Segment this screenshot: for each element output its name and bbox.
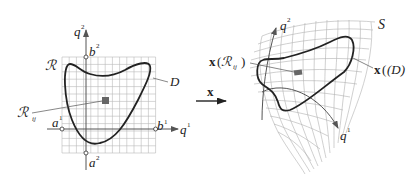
mapping-diagram: ℛ D ℛ ij q 1 q 2 a 1 b 1 b 2 a 2 x <box>0 0 415 184</box>
image-domain-label: x ( (D) <box>374 62 405 77</box>
svg-text:a: a <box>52 115 59 130</box>
svg-text:q: q <box>74 24 81 39</box>
q1-label: q 1 <box>180 121 191 137</box>
svg-text:x: x <box>374 62 381 77</box>
svg-text:b: b <box>157 118 164 133</box>
svg-text:ℛ: ℛ <box>17 105 29 120</box>
svg-text:): ) <box>241 54 245 69</box>
D-leader <box>153 78 168 82</box>
b2-label: b 2 <box>89 42 100 59</box>
a2-point <box>84 151 88 155</box>
svg-text:1: 1 <box>59 114 63 122</box>
image-domain-leader <box>351 57 373 68</box>
svg-text:q: q <box>180 122 187 137</box>
svg-text:2: 2 <box>96 154 100 162</box>
svg-text:2: 2 <box>96 42 100 50</box>
svg-text:1: 1 <box>347 126 351 134</box>
cell-Rij <box>102 97 109 104</box>
domain-D-label: D <box>169 74 180 89</box>
image-cell-label: x ( ℛ ij ) <box>209 54 245 71</box>
q2-label: q 2 <box>74 23 85 39</box>
svg-text:ij: ij <box>233 63 237 71</box>
mapping-x-label: x <box>207 84 214 99</box>
svg-text:a: a <box>89 155 96 170</box>
svg-text:2: 2 <box>287 16 291 24</box>
svg-text:2: 2 <box>81 23 85 31</box>
surface-q2-label: q 2 <box>280 16 291 33</box>
region-R-label: ℛ <box>45 58 57 73</box>
cell-Rij-label: ℛ ij <box>17 105 36 123</box>
svg-text:(: ( <box>382 62 386 77</box>
surface-q1-label: q 1 <box>340 126 351 143</box>
svg-text:q: q <box>280 18 287 33</box>
a1-point <box>60 127 64 131</box>
svg-text:ℛ: ℛ <box>221 54 233 69</box>
surface-S-label: S <box>378 17 385 32</box>
svg-text:1: 1 <box>164 118 168 126</box>
svg-text:q: q <box>340 128 347 143</box>
b1-label: b 1 <box>157 118 168 133</box>
svg-text:x: x <box>209 54 216 69</box>
svg-text:1: 1 <box>187 121 191 129</box>
svg-text:(D): (D) <box>387 62 405 77</box>
svg-text:ij: ij <box>32 115 36 123</box>
svg-text:b: b <box>89 44 96 59</box>
b2-point <box>84 55 88 59</box>
a2-label: a 2 <box>89 154 100 170</box>
